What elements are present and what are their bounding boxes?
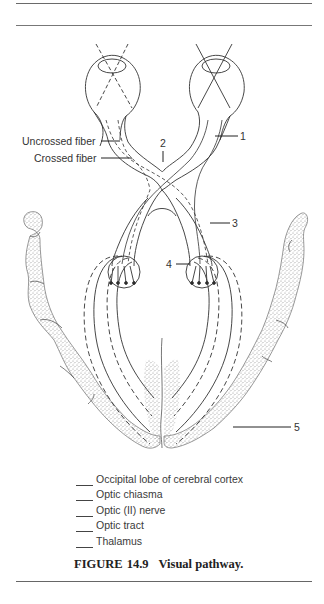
thalamus-right	[186, 256, 218, 288]
bottom-rule	[16, 581, 312, 582]
answer-blank[interactable]	[76, 507, 93, 517]
optic-nerves-chiasma-tracts	[94, 112, 230, 266]
legend-label: Occipital lobe of cerebral cortex	[96, 472, 243, 486]
answer-blank[interactable]	[76, 522, 93, 532]
callout-2: 2	[160, 137, 166, 149]
longitudinal-fissure	[161, 338, 162, 448]
answer-blank[interactable]	[76, 476, 93, 486]
crossed-fiber-label: Crossed fiber	[34, 152, 96, 164]
legend-item: Occipital lobe of cerebral cortex	[76, 470, 243, 486]
callout-4: 4	[166, 258, 172, 270]
legend-label: Optic tract	[96, 518, 144, 532]
answer-blank[interactable]	[76, 491, 93, 501]
legend-label: Optic (II) nerve	[96, 503, 165, 517]
figure-label: FIGURE	[74, 557, 123, 571]
legend-item: Optic chiasma	[76, 486, 243, 502]
callout-5: 5	[294, 421, 300, 433]
answer-legend: Occipital lobe of cerebral cortex Optic …	[76, 470, 243, 548]
answer-blank[interactable]	[76, 538, 93, 548]
figure-title: Visual pathway.	[159, 557, 244, 571]
crossed-uncrossed-fibers	[106, 120, 208, 264]
right-eye	[189, 44, 244, 140]
figure-caption: FIGURE14.9Visual pathway.	[74, 557, 243, 572]
left-occipital-lobe	[24, 212, 160, 449]
label-leaders	[101, 136, 291, 427]
legend-item: Optic (II) nerve	[76, 501, 243, 517]
thalamus-left	[108, 256, 140, 288]
legend-label: Optic chiasma	[96, 487, 163, 501]
right-occipital-lobe	[164, 213, 308, 448]
legend-item: Optic tract	[76, 517, 243, 533]
callout-1: 1	[240, 130, 246, 142]
legend-item: Thalamus	[76, 532, 243, 548]
uncrossed-fiber-label: Uncrossed fiber	[22, 135, 96, 147]
legend-label: Thalamus	[96, 534, 142, 548]
callout-3: 3	[232, 217, 238, 229]
visual-pathway-diagram	[0, 0, 324, 470]
left-eye	[85, 44, 140, 146]
figure-number: 14.9	[127, 557, 149, 571]
